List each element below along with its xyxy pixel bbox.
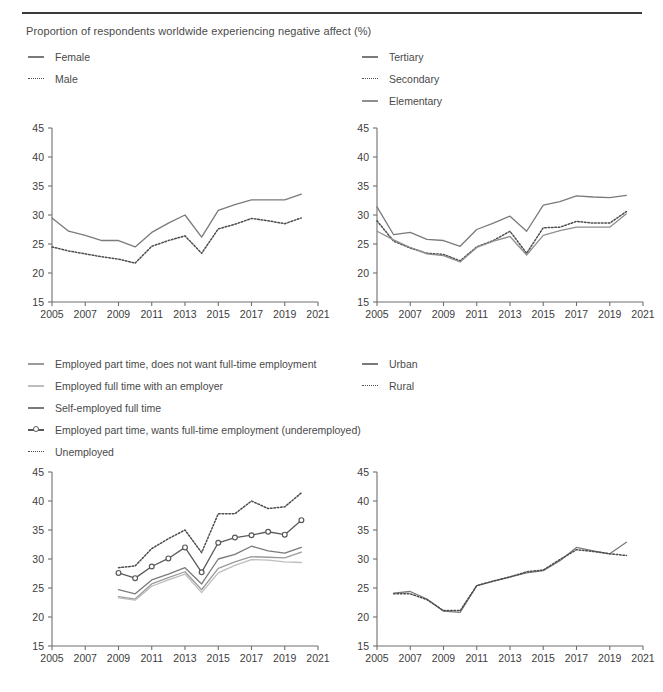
legend-sex-item[interactable]: Male	[26, 70, 90, 88]
chart-panel-employment: 4540353025201520052007200920112013201520…	[12, 462, 332, 672]
series-marker	[216, 540, 221, 545]
x-tick-label: 2009	[432, 308, 456, 320]
x-tick-label: 2011	[140, 652, 163, 664]
y-tick-label: 15	[357, 640, 369, 652]
legend-label: Urban	[389, 358, 418, 370]
x-tick-label: 2021	[631, 308, 655, 320]
series-marker	[249, 533, 254, 538]
legend-line-icon	[26, 380, 46, 392]
y-tick-label: 40	[357, 495, 369, 507]
chart-panel-sex: 4540353025201520052007200920112013201520…	[12, 118, 332, 328]
legend-label: Elementary	[389, 95, 442, 107]
legend-area-item[interactable]: Urban	[360, 355, 418, 373]
legend-line-icon	[360, 380, 380, 392]
legend-education-item[interactable]: Secondary	[360, 70, 442, 88]
x-tick-label: 2005	[365, 652, 389, 664]
y-tick-label: 40	[32, 151, 44, 163]
legend-education-item[interactable]: Tertiary	[360, 48, 442, 66]
legend-label: Employed full time with an employer	[55, 380, 223, 392]
x-tick-label: 2005	[40, 652, 64, 664]
legend-label: Female	[55, 51, 90, 63]
y-tick-label: 25	[357, 582, 369, 594]
legend-label: Employed part time, does not want full-t…	[55, 358, 316, 370]
legend-line-icon	[26, 446, 46, 458]
x-tick-label: 2013	[498, 308, 522, 320]
legend-area: UrbanRural	[360, 355, 418, 399]
y-tick-label: 25	[32, 582, 44, 594]
x-tick-label: 2011	[465, 652, 488, 664]
x-tick-label: 2007	[399, 652, 423, 664]
x-tick-label: 2017	[240, 308, 264, 320]
x-tick-label: 2015	[532, 308, 556, 320]
chart-panel-area: 4540353025201520052007200920112013201520…	[337, 462, 657, 672]
legend-employment-item[interactable]: Employed part time, does not want full-t…	[26, 355, 361, 373]
series-marker	[116, 571, 121, 576]
legend-label: Employed part time, wants full-time empl…	[55, 424, 361, 436]
x-tick-label: 2019	[273, 308, 297, 320]
chart-svg-education: 4540353025201520052007200920112013201520…	[337, 118, 657, 328]
legend-employment-item[interactable]: Employed part time, wants full-time empl…	[26, 421, 361, 439]
x-tick-label: 2017	[565, 652, 589, 664]
series-line-male	[52, 218, 301, 263]
y-tick-label: 25	[32, 238, 44, 250]
y-tick-label: 30	[32, 553, 44, 565]
y-tick-label: 30	[357, 553, 369, 565]
series-marker	[166, 556, 171, 561]
legend-line-icon	[360, 73, 380, 85]
legend-line-icon	[360, 358, 380, 370]
series-line-rural	[394, 550, 627, 611]
legend-area-item[interactable]: Rural	[360, 377, 418, 395]
legend-line-icon	[26, 424, 46, 436]
x-tick-label: 2021	[631, 652, 655, 664]
y-tick-label: 15	[32, 640, 44, 652]
y-tick-label: 35	[32, 180, 44, 192]
x-tick-label: 2015	[532, 652, 556, 664]
legend-line-icon	[26, 51, 46, 63]
x-tick-label: 2013	[173, 308, 197, 320]
page-title: Proportion of respondents worldwide expe…	[26, 25, 371, 37]
x-tick-label: 2009	[432, 652, 456, 664]
x-tick-label: 2011	[465, 308, 488, 320]
series-line-urban	[394, 542, 627, 612]
legend-employment: Employed part time, does not want full-t…	[26, 355, 361, 465]
legend-label: Rural	[389, 380, 414, 392]
series-marker	[266, 529, 271, 534]
legend-employment-item[interactable]: Self-employed full time	[26, 399, 361, 417]
legend-sex-item[interactable]: Female	[26, 48, 90, 66]
y-tick-label: 35	[357, 180, 369, 192]
legend-education: TertiarySecondaryElementary	[360, 48, 442, 114]
y-tick-label: 30	[357, 209, 369, 221]
y-tick-label: 40	[357, 151, 369, 163]
y-tick-label: 15	[32, 296, 44, 308]
legend-label: Unemployed	[55, 446, 114, 458]
legend-line-icon	[26, 402, 46, 414]
series-marker	[133, 576, 138, 581]
x-tick-label: 2005	[40, 308, 64, 320]
x-tick-label: 2013	[498, 652, 522, 664]
legend-employment-item[interactable]: Unemployed	[26, 443, 361, 461]
legend-label: Male	[55, 73, 78, 85]
series-marker	[199, 570, 204, 575]
figure-page: Proportion of respondents worldwide expe…	[0, 0, 663, 692]
y-tick-label: 25	[357, 238, 369, 250]
y-tick-label: 20	[357, 267, 369, 279]
x-tick-label: 2015	[207, 308, 231, 320]
y-tick-label: 20	[32, 611, 44, 623]
legend-label: Self-employed full time	[55, 402, 161, 414]
series-marker	[183, 545, 188, 550]
series-line-elementary	[377, 214, 626, 262]
y-tick-label: 20	[32, 267, 44, 279]
y-tick-label: 45	[357, 466, 369, 478]
y-tick-label: 45	[357, 122, 369, 134]
x-tick-label: 2019	[598, 652, 622, 664]
y-tick-label: 45	[32, 466, 44, 478]
chart-panel-education: 4540353025201520052007200920112013201520…	[337, 118, 657, 328]
legend-employment-item[interactable]: Employed full time with an employer	[26, 377, 361, 395]
x-tick-label: 2005	[365, 308, 389, 320]
legend-education-item[interactable]: Elementary	[360, 92, 442, 110]
series-line-secondary	[377, 212, 626, 261]
chart-svg-sex: 4540353025201520052007200920112013201520…	[12, 118, 332, 328]
x-tick-label: 2021	[306, 652, 330, 664]
legend-sex: FemaleMale	[26, 48, 90, 92]
series-line-employed-part-time-wants-full-time-employment-underemployed	[119, 520, 302, 578]
